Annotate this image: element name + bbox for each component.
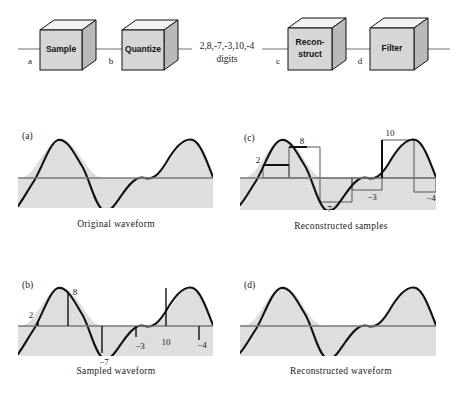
panel-c-value-10: 10	[386, 128, 396, 138]
panel-c-value-neg7: −7	[322, 204, 332, 214]
panel-b-value-neg4: −4	[197, 340, 207, 350]
panel-b-value-2: 2	[29, 310, 34, 320]
block-quantize-label: Quantize	[125, 44, 161, 54]
block-reconstruct-label-line2: struct	[298, 49, 322, 59]
panel-c-caption: Reconstructed samples	[294, 221, 388, 231]
block-reconstruct[interactable]: Recon- struct	[288, 18, 346, 70]
block-reconstruct-label-line1: Recon-	[296, 37, 325, 47]
digit-stream-line1: 2,8,-7,-3,10,-4	[200, 41, 255, 51]
panel-b-value-8: 8	[73, 287, 78, 297]
node-letter-c: c	[276, 56, 280, 66]
panel-b-value-10: 10	[162, 337, 172, 347]
panel-c-value-8: 8	[300, 136, 305, 146]
panel-b-shading-positive-1	[18, 288, 103, 326]
block-filter-label: Filter	[382, 43, 403, 53]
block-sample-label: Sample	[46, 44, 77, 54]
panel-d-letter: (d)	[244, 280, 255, 291]
panel-d: (d) Reconstructed waveform	[240, 280, 436, 376]
panel-c-letter: (c)	[244, 133, 255, 144]
panel-b: (b) 2 8 −7 −3 10 −4 Sampled waveform	[18, 280, 213, 376]
node-letter-d: d	[358, 56, 363, 66]
panel-c-shading-positive-1	[240, 140, 325, 178]
node-letter-b: b	[109, 56, 114, 66]
panel-c-value-2: 2	[256, 155, 261, 165]
block-filter[interactable]: Filter	[370, 18, 428, 70]
panel-a-shading-positive	[18, 140, 103, 178]
panel-a-caption: Original waveform	[77, 219, 155, 229]
panel-a: (a) Original waveform	[18, 131, 213, 229]
panel-d-shading-positive-1	[240, 288, 325, 326]
panel-a-letter: (a)	[22, 131, 33, 142]
block-sample[interactable]: Sample	[40, 20, 96, 70]
panel-d-caption: Reconstructed waveform	[290, 366, 392, 376]
block-diagram: Sample Quantize Recon- struct Filter a b…	[0, 0, 456, 395]
panel-c-value-neg4: −4	[426, 193, 436, 203]
block-quantize[interactable]: Quantize	[122, 20, 178, 70]
figure-root: Sample Quantize Recon- struct Filter a b…	[0, 0, 456, 395]
digit-stream-line2: digits	[216, 54, 237, 64]
panel-c-value-neg3: −3	[367, 192, 377, 202]
panel-c: (c) 2 8 −7 −3 10 −4 Reconstructed sample…	[240, 128, 436, 231]
panel-b-value-neg3: −3	[135, 341, 145, 351]
panel-b-letter: (b)	[22, 280, 33, 291]
panel-b-caption: Sampled waveform	[77, 366, 156, 376]
node-letter-a: a	[28, 56, 32, 66]
